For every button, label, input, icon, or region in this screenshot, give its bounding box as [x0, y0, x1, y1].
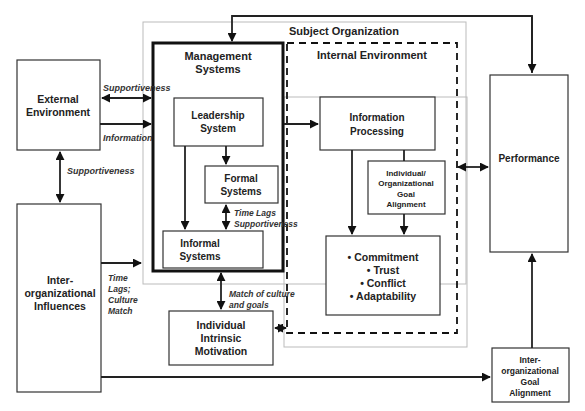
goal-alignment-label-2: Organizational	[378, 179, 434, 188]
inter-org-goal-label-3: Goal	[521, 377, 540, 387]
inter-org-influences-label-2: organizational	[24, 287, 95, 299]
information-label: Information	[103, 133, 153, 143]
information-processing-label-2: Processing	[350, 126, 404, 137]
leadership-system-node	[174, 98, 263, 146]
leadership-system-label-1: Leadership	[191, 110, 244, 121]
inter-org-influences-label-1: Inter-	[47, 274, 74, 286]
formal-systems-label-2: Systems	[220, 186, 262, 197]
information-processing-node	[320, 97, 435, 150]
time-lags-label-4: Match	[108, 306, 133, 316]
internal-environment-label: Internal Environment	[317, 49, 427, 61]
outcome-commitment: • Commitment	[348, 251, 419, 263]
time-lags-supportiveness-label-1: Time Lags	[234, 208, 276, 218]
informal-systems-label-1: Informal	[180, 238, 220, 249]
outcome-trust: • Trust	[367, 264, 400, 276]
formal-systems-label-1: Formal	[224, 173, 258, 184]
external-environment-label-2: Environment	[26, 106, 91, 118]
formal-systems-node	[205, 166, 278, 203]
informal-systems-node	[163, 231, 263, 268]
inter-org-goal-label-4: Alignment	[509, 388, 551, 398]
management-systems-label-1: Management	[184, 50, 252, 62]
goal-alignment-label-4: Alignment	[386, 200, 425, 209]
match-culture-label-2: and goals	[229, 300, 269, 310]
supportiveness-left-label: Supportiveness	[67, 166, 135, 176]
supportiveness-top-label: Supportiveness	[103, 83, 171, 93]
time-lags-label-2: Lags;	[108, 284, 131, 294]
outcome-conflict: • Conflict	[360, 277, 406, 289]
time-lags-label-3: Culture	[108, 295, 138, 305]
performance-label: Performance	[498, 153, 560, 164]
inter-org-goal-label-1: Inter-	[519, 355, 540, 365]
goal-alignment-label-3: Goal	[397, 190, 415, 199]
inter-org-goal-label-2: organizational	[501, 366, 559, 376]
intrinsic-motivation-label-1: Individual	[196, 319, 245, 331]
outcome-adaptability: • Adaptability	[350, 290, 416, 302]
time-lags-label-1: Time	[108, 273, 128, 283]
leadership-system-label-2: System	[200, 123, 236, 134]
goal-alignment-label-1: Individual/	[386, 169, 426, 178]
management-systems-label-2: Systems	[195, 63, 240, 75]
time-lags-supportiveness-label-2: Supportiveness	[234, 219, 298, 229]
diagram-canvas: Subject Organization Management Systems …	[0, 0, 585, 411]
match-culture-label-1: Match of culture	[229, 289, 295, 299]
external-environment-node	[17, 60, 100, 150]
information-processing-label-1: Information	[350, 112, 405, 123]
intrinsic-motivation-label-2: Intrinsic	[201, 332, 242, 344]
inter-org-influences-label-3: Influences	[34, 300, 86, 312]
informal-systems-label-2: Systems	[179, 251, 221, 262]
external-environment-label-1: External	[37, 93, 79, 105]
subject-organization-label: Subject Organization	[289, 25, 399, 37]
intrinsic-motivation-label-3: Motivation	[195, 345, 248, 357]
